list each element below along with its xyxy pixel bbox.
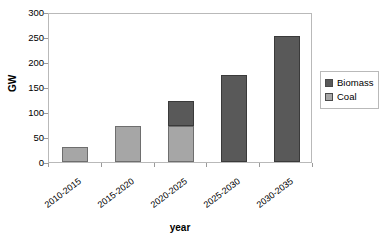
x-axis-tick-label: 2010-2015 — [33, 176, 84, 218]
bar-group — [62, 12, 88, 162]
legend-label: Biomass — [337, 78, 373, 88]
bar-group — [115, 12, 141, 162]
chart-legend: BiomassCoal — [320, 71, 379, 109]
y-axis-tick-label: 100 — [18, 108, 44, 118]
x-axis-tick-label: 2020-2025 — [138, 176, 189, 218]
x-axis-tick-mark — [48, 163, 49, 167]
y-axis-tick-labels: 050100150200250300 — [18, 13, 44, 163]
x-axis-tick-mark — [154, 163, 155, 167]
bar-segment-biomass — [221, 75, 247, 163]
x-axis-tick-mark — [259, 163, 260, 167]
bar-segment-coal — [62, 147, 88, 162]
y-axis-tick-label: 50 — [18, 133, 44, 143]
y-axis-tick-label: 200 — [18, 58, 44, 68]
bar-segment-coal — [115, 126, 141, 162]
x-axis-title: year — [48, 222, 312, 233]
y-axis-tick-label: 250 — [18, 33, 44, 43]
legend-label: Coal — [337, 92, 357, 102]
x-axis-tick-label: 2025-2030 — [191, 176, 242, 218]
y-axis-tick-label: 300 — [18, 8, 44, 18]
bar-segment-biomass — [168, 101, 194, 127]
x-axis-tick-mark — [312, 163, 313, 167]
y-axis-tick-label: 150 — [18, 83, 44, 93]
bars-container — [49, 14, 311, 162]
x-axis-tick-label: 2030-2035 — [244, 176, 295, 218]
legend-item: Biomass — [325, 76, 373, 90]
bar-segment-coal — [168, 126, 194, 162]
legend-swatch-coal — [325, 93, 333, 101]
bar-group — [168, 12, 194, 162]
x-axis-tick-mark — [101, 163, 102, 167]
y-axis-title: GW — [7, 64, 18, 104]
plot-area — [48, 13, 312, 163]
x-axis-tick-mark — [206, 163, 207, 167]
bar-group — [221, 12, 247, 162]
y-axis-tick-label: 0 — [18, 158, 44, 168]
bar-group — [274, 12, 300, 162]
bar-segment-biomass — [274, 36, 300, 162]
x-axis-tick-label: 2015-2020 — [85, 176, 136, 218]
legend-swatch-biomass — [325, 79, 333, 87]
legend-item: Coal — [325, 90, 373, 104]
bar-chart: GW 050100150200250300 2010-20152015-2020… — [0, 0, 386, 247]
